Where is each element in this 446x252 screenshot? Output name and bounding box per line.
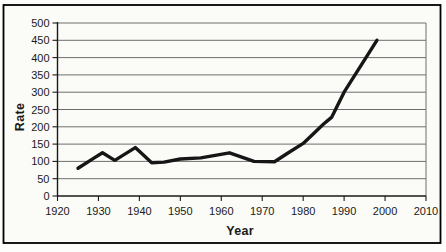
x-tick-label-1950: 1950 (168, 205, 192, 217)
y-tick-label-450: 450 (31, 34, 49, 46)
y-tick-label-150: 150 (31, 138, 49, 150)
x-tick-label-1960: 1960 (209, 205, 233, 217)
y-tick-label-200: 200 (31, 121, 49, 133)
y-tick-label-300: 300 (31, 86, 49, 98)
line-chart-plot: 0501001502002503003504004505001920193019… (0, 0, 446, 252)
x-tick-label-2010: 2010 (414, 205, 438, 217)
x-tick-label-2000: 2000 (373, 205, 397, 217)
scanned-line-chart-figure: 0501001502002503003504004505001920193019… (0, 0, 446, 252)
x-tick-label-1940: 1940 (127, 205, 151, 217)
y-axis-title: Rate (13, 103, 27, 131)
x-tick-label-1980: 1980 (291, 205, 315, 217)
y-tick-label-350: 350 (31, 69, 49, 81)
y-tick-label-0: 0 (43, 190, 49, 202)
x-axis-title: Year (226, 224, 254, 238)
x-tick-label-1990: 1990 (332, 205, 356, 217)
y-tick-label-50: 50 (37, 173, 49, 185)
x-tick-label-1930: 1930 (86, 205, 110, 217)
y-tick-label-250: 250 (31, 104, 49, 116)
y-tick-label-100: 100 (31, 155, 49, 167)
y-tick-label-500: 500 (31, 17, 49, 29)
y-tick-label-400: 400 (31, 52, 49, 64)
x-tick-label-1970: 1970 (250, 205, 274, 217)
x-tick-label-1920: 1920 (45, 205, 69, 217)
